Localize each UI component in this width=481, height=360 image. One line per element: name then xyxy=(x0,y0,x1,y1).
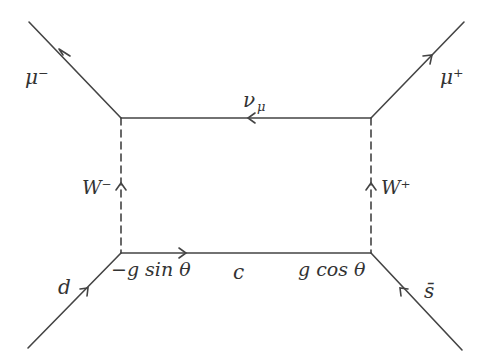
mu-minus-label: μ⁻ xyxy=(25,65,49,89)
coupling-bottom-left-label: −g sin θ xyxy=(111,258,191,280)
w-minus-arrow-icon xyxy=(116,183,126,190)
c-quark-label: c xyxy=(233,260,244,284)
nu-sub-label: μ xyxy=(257,99,265,114)
feynman-diagram: μ⁻ μ⁺ ν μ W⁻ W⁺ −g sin θ c g cos θ d s̄ xyxy=(0,0,481,360)
s-bar-label: s̄ xyxy=(424,279,434,303)
coupling-bottom-right-label: g cos θ xyxy=(298,258,366,280)
w-minus-label: W⁻ xyxy=(82,176,112,198)
d-quark-line xyxy=(28,253,121,348)
w-plus-arrow-icon xyxy=(366,183,376,190)
diagram-canvas: μ⁻ μ⁺ ν μ W⁻ W⁺ −g sin θ c g cos θ d s̄ xyxy=(0,0,481,360)
s-bar-line xyxy=(371,253,462,350)
d-quark-label: d xyxy=(58,275,71,299)
nu-label: ν xyxy=(243,88,255,112)
mu-plus-label: μ⁺ xyxy=(440,65,464,89)
w-plus-label: W⁺ xyxy=(381,176,411,198)
d-quark-arrow-icon xyxy=(80,288,88,296)
